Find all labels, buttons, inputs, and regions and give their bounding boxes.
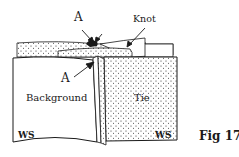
arrow-a-top	[82, 30, 94, 43]
label-a-top: A	[74, 11, 83, 23]
rear-plain-block	[145, 44, 173, 57]
label-tie: Tie	[134, 93, 150, 103]
label-a-side: A	[61, 72, 70, 84]
label-knot: Knot	[133, 14, 156, 24]
label-ws-right: WS	[155, 131, 172, 140]
label-ws-left: WS	[18, 131, 35, 140]
figure-caption: Fig 17	[199, 130, 239, 142]
arrow-a-top-2	[95, 34, 102, 43]
label-background: Background	[26, 93, 87, 103]
